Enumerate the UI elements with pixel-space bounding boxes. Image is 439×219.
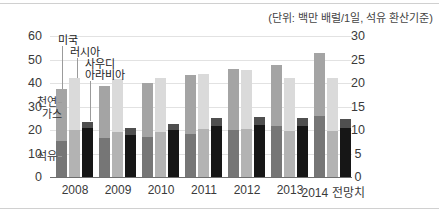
bar-russia-oil-2011	[198, 129, 209, 177]
bar-usa-gas-2014 전망치	[314, 53, 325, 116]
bar-russia-gas-2013	[284, 78, 295, 131]
left-axis-tick-40: 40	[12, 77, 42, 89]
bar-saudi-oil-2008	[82, 128, 93, 177]
bar-saudi-gas-2013	[297, 118, 308, 126]
bar-saudi-gas-2011	[211, 118, 222, 126]
bar-usa-oil-2010	[142, 137, 153, 177]
bar-russia-gas-2008	[69, 78, 80, 130]
leader-line-natural-gas	[58, 102, 62, 103]
bar-russia-gas-2010	[155, 78, 166, 132]
bar-russia-gas-2014 전망치	[327, 78, 338, 131]
gridline-60	[50, 36, 352, 37]
bar-russia-gas-2012	[241, 70, 252, 129]
bar-usa-gas-2012	[228, 69, 239, 130]
bar-russia-oil-2008	[69, 130, 80, 177]
bar-usa-oil-2013	[271, 126, 282, 177]
bar-usa-oil-2014 전망치	[314, 116, 325, 177]
left-axis-tick-20: 20	[12, 124, 42, 136]
bar-saudi-gas-2010	[168, 124, 179, 130]
bar-russia-oil-2009	[112, 132, 123, 177]
bar-saudi-oil-2010	[168, 130, 179, 177]
right-axis-tick-20: 20	[344, 77, 372, 89]
bar-usa-gas-2009	[99, 86, 110, 138]
label-usa: 미국	[58, 35, 78, 46]
bar-saudi-oil-2011	[211, 126, 222, 177]
right-axis-tick-15: 15	[344, 101, 372, 113]
bottom-divider	[0, 208, 439, 209]
label-saudi-line2: 아라비아	[85, 70, 125, 81]
bar-saudi-oil-2012	[254, 125, 265, 177]
bar-saudi-gas-2012	[254, 117, 265, 125]
left-axis-tick-60: 60	[12, 30, 42, 42]
leader-line-oil	[58, 156, 62, 157]
oil-gas-production-chart-figure: (단위: 백만 배럴/1일, 석유 환산기준) 0010520103015402…	[0, 0, 439, 219]
x-axis-line	[50, 177, 352, 178]
label-russia: 러시아	[70, 47, 100, 58]
left-axis-tick-50: 50	[12, 54, 42, 66]
bar-saudi-oil-2013	[297, 126, 308, 177]
bar-usa-oil-2009	[99, 138, 110, 177]
bar-russia-gas-2011	[198, 74, 209, 129]
bar-saudi-oil-2009	[125, 135, 136, 177]
bar-usa-gas-2011	[185, 75, 196, 134]
bar-saudi-oil-2014 전망치	[340, 128, 351, 177]
left-axis-tick-0: 0	[12, 171, 42, 183]
bar-russia-oil-2013	[284, 131, 295, 177]
bar-usa-oil-2011	[185, 134, 196, 177]
bar-saudi-gas-2009	[125, 128, 136, 135]
x-axis-label-2014 전망치: 2014 전망치	[301, 183, 365, 200]
bar-saudi-gas-2008	[82, 122, 93, 128]
label-natural-gas-line1: 천연	[35, 97, 57, 108]
leader-line-saudi	[90, 81, 91, 121]
leader-line-russia	[77, 58, 78, 78]
unit-label: (단위: 백만 배럴/1일, 석유 환산기준)	[268, 9, 433, 25]
top-divider	[0, 3, 439, 4]
label-natural-gas-line2: 가스	[40, 109, 62, 120]
right-axis-tick-30: 30	[344, 30, 372, 42]
bar-usa-oil-2008	[56, 141, 67, 177]
right-axis-tick-25: 25	[344, 54, 372, 66]
bar-russia-gas-2009	[112, 79, 123, 132]
leader-line-usa	[62, 46, 63, 89]
bar-usa-gas-2013	[271, 65, 282, 126]
bar-usa-gas-2010	[142, 83, 153, 137]
bar-saudi-gas-2014 전망치	[340, 119, 351, 128]
label-oil: 석유	[35, 151, 57, 162]
bar-russia-oil-2014 전망치	[327, 131, 338, 177]
bar-russia-oil-2010	[155, 132, 166, 177]
bar-russia-oil-2012	[241, 129, 252, 177]
bar-usa-oil-2012	[228, 130, 239, 177]
